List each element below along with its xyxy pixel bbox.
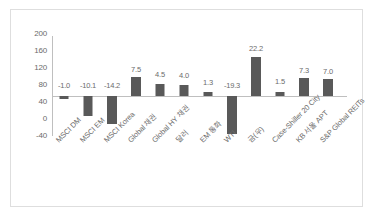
bar-em-currency bbox=[204, 92, 213, 96]
bar-value-global-bond: 7.5 bbox=[131, 66, 141, 74]
bar-msci-em bbox=[84, 96, 93, 116]
y-tick-6: -40 bbox=[21, 132, 47, 140]
bar-sp-global-reits bbox=[323, 79, 333, 96]
y-tick-0: 200 bbox=[21, 30, 47, 38]
bar-case-shiller bbox=[276, 92, 285, 96]
bar-value-gold: 22.2 bbox=[249, 45, 263, 53]
bar-gold bbox=[251, 57, 261, 96]
bar-value-sp-global-reits: 7.0 bbox=[323, 68, 333, 76]
bar-value-case-shiller: 1.5 bbox=[275, 78, 285, 86]
bar-value-em-currency: 1.3 bbox=[203, 79, 213, 87]
bar-slot-gold: 22.2 bbox=[244, 36, 268, 136]
bar-value-msci-dm: -1.0 bbox=[58, 82, 70, 90]
chart-card: 200 160 120 80 40 0 -40 -1.0 -10.1 - bbox=[10, 9, 363, 207]
bar-dollar bbox=[180, 85, 189, 96]
x-axis-category-labels: MSCI DM MSCI EM MSCI Korea Global 채권 Glo… bbox=[52, 138, 352, 202]
bar-value-msci-em: -10.1 bbox=[80, 82, 96, 90]
y-tick-4: 40 bbox=[21, 98, 47, 106]
bar-value-wti: -19.3 bbox=[224, 82, 240, 90]
bar-value-msci-korea: -14.2 bbox=[104, 82, 120, 90]
y-axis-tick-labels: 200 160 120 80 40 0 -40 bbox=[19, 34, 47, 134]
bar-slot-wti: -19.3 bbox=[220, 36, 244, 136]
bar-msci-korea bbox=[107, 96, 117, 124]
y-tick-2: 120 bbox=[21, 64, 47, 72]
y-tick-5: 0 bbox=[21, 115, 47, 123]
y-tick-3: 80 bbox=[21, 81, 47, 89]
bar-global-bond bbox=[131, 77, 141, 96]
y-tick-1: 160 bbox=[21, 47, 47, 55]
bar-kb-seoul-apt bbox=[299, 78, 309, 96]
bar-value-kb-seoul-apt: 7.3 bbox=[299, 67, 309, 75]
bar-global-hy-bond bbox=[156, 84, 165, 96]
bar-msci-dm bbox=[60, 96, 69, 99]
bar-value-dollar: 4.0 bbox=[179, 72, 189, 80]
bar-value-global-hy-bond: 4.5 bbox=[155, 71, 165, 79]
bar-chart-plot-area: 200 160 120 80 40 0 -40 -1.0 -10.1 - bbox=[11, 10, 364, 208]
